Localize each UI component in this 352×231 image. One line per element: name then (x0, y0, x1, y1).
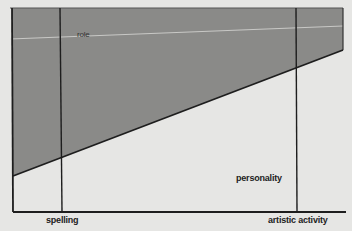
role-label: role (77, 30, 90, 39)
diagram-canvas (0, 0, 352, 231)
spelling-label: spelling (46, 215, 78, 225)
personality-label: personality (236, 173, 282, 183)
y-axis (12, 8, 13, 212)
artistic-activity-label: artistic activity (268, 215, 328, 225)
